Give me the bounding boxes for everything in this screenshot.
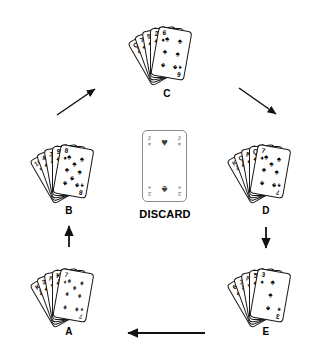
card-pip: ♠: [259, 166, 268, 175]
card-pip-area: ♠♠♠♠♠♠♠: [250, 145, 290, 198]
card-pip: ♠: [173, 50, 182, 59]
arrow-b-to-c: [57, 89, 95, 115]
card-pip-area: ♦♦♦♦♦♦♦: [53, 269, 93, 322]
discard-pip-top: ♥: [143, 137, 186, 148]
card-pip: ♠: [73, 181, 82, 190]
hand-label-a: A: [59, 326, 79, 337]
card-pip: ♠: [60, 179, 69, 188]
discard-index-bottom-right: 2 ♠: [176, 185, 183, 197]
hand-e[interactable]: 6♣6♣♣♣♣♣♣♣J♥J♥A♥A♥♥5♣5♣♣♣♣♣♣3♠3♠♠♠♠: [266, 320, 267, 321]
discard-card[interactable]: 2 ♥ 2 ♥ ♥ ♠ 2 ♠ 2 ♠: [142, 130, 187, 202]
card-pip-area: ♠♠♠♠♠♠♠♠: [53, 145, 93, 198]
card-pip: ♦: [73, 305, 82, 314]
card-pip: ♠: [266, 291, 275, 300]
hand-d[interactable]: K♥K♥Q♣Q♣A♣A♣♣Q♣Q♣♣7♠7♠♠♠♠♠♠♠♠: [266, 196, 267, 197]
discard-label: DISCARD: [120, 208, 210, 220]
card-pip: ♠: [257, 179, 266, 188]
card-pip: ♦: [62, 290, 71, 299]
hand-a[interactable]: K♣K♣3♣3♣♣♣♣A♥A♥♥K♣K♣7♦7♦♦♦♦♦♦♦♦: [69, 320, 70, 321]
hand-c[interactable]: Q♣Q♣7♣7♣♣♣♣♣♣♣♣5♣5♣♣♣♣♣♣2♣2♣♣♣6♠6♠♠♠♠♠♠♠: [167, 78, 168, 79]
card-pip: ♠: [163, 34, 172, 43]
card-pip: ♠: [171, 63, 180, 72]
card-pip: ♠: [263, 304, 272, 313]
card-pip-area: ♠♠♠♠♠♠: [151, 27, 191, 80]
hand-label-b: B: [59, 205, 79, 216]
hand-label-c: C: [157, 88, 177, 99]
card-pip-area: ♠♠♠: [250, 269, 290, 322]
card-pip: ♠: [175, 37, 184, 46]
card-pip: ♠: [158, 61, 167, 70]
card-pip: ♠: [272, 168, 281, 177]
card-cycle-diagram: Q♣Q♣7♣7♣♣♣♣♣♣♣♣5♣5♣♣♣♣♣♣2♣2♣♣♣6♠6♠♠♠♠♠♠♠…: [0, 0, 333, 350]
card-pip: ♦: [75, 292, 84, 301]
card-pip: ♦: [60, 303, 69, 312]
arrow-c-to-d: [239, 88, 276, 114]
hand-label-e: E: [256, 326, 276, 337]
hand-label-d: D: [256, 205, 276, 216]
hand-b[interactable]: 10♥10♥♥♥♥♥♥♥♥♥♥♥4♣4♣♣♣♣♣J♠J♠9♣9♣♣♣♣♣♣♣♣♣…: [69, 196, 70, 197]
card-pip: ♠: [270, 181, 279, 190]
discard-index-bottom-left: 2 ♠: [146, 185, 153, 197]
card-pip: ♠: [160, 48, 169, 57]
card-pip: ♠: [268, 277, 277, 286]
